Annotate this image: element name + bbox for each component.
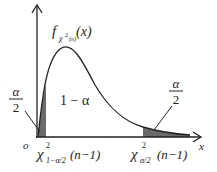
right-tail-label-numerator: α: [173, 76, 181, 91]
left-tail-label-numerator: α: [13, 84, 21, 99]
right-quantile-sup: 2: [142, 141, 146, 150]
right-tail-leader-line: [154, 106, 172, 130]
function-label-subscript-n: (n): [69, 36, 76, 43]
left-quantile-arg: (n−1): [70, 147, 100, 162]
origin-label: o: [23, 139, 29, 151]
chi-square-diagram: f χ 2 (n) (x) 1 − α α 2 α 2 o x χ 2: [0, 0, 217, 172]
density-curve: [38, 47, 190, 137]
right-tail-label-denominator: 2: [173, 92, 180, 107]
left-quantile-chi: χ: [35, 146, 44, 162]
function-label-subscript-sup: 2: [65, 32, 68, 38]
center-area-label: 1 − α: [60, 93, 90, 108]
right-quantile-sub: α/2: [140, 156, 150, 165]
x-axis-label: x: [198, 140, 204, 152]
left-quantile-sub: 1−α/2: [46, 156, 66, 165]
function-label: f: [52, 23, 58, 39]
right-quantile-chi: χ: [129, 146, 138, 162]
function-label-subscript: χ: [58, 34, 63, 43]
left-quantile-sup: 2: [46, 141, 50, 150]
left-tail-leader-line: [25, 111, 40, 132]
function-label-arg: (x): [76, 24, 92, 40]
left-tail-label-denominator: 2: [13, 100, 20, 115]
right-quantile-arg: (n−1): [157, 147, 187, 162]
